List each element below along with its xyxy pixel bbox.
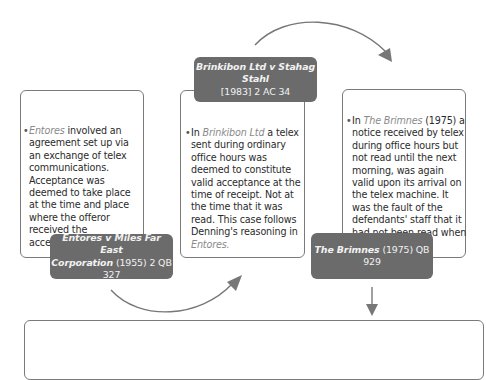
arrowhead-down-icon [366, 304, 378, 316]
bullet-icon: • [346, 115, 352, 127]
case-label-entores: Entores v Miles Far East Corporation (19… [50, 234, 173, 279]
case-description: a telex sent during ordinary office hour… [191, 127, 300, 237]
case-name-line1: Entores v Miles Far East [62, 232, 161, 256]
case-name: Brinkibon Ltd v Stahag Stahl [196, 61, 315, 85]
text-suffix: . [227, 239, 230, 250]
case-label-brimnes: The Brimnes (1975) QB 929 [311, 233, 433, 279]
case-reference: Entores [29, 125, 65, 136]
case-name-line2: Corporation [51, 257, 113, 268]
case-reference: Brinkibon Ltd [203, 127, 265, 138]
bullet-icon: • [23, 125, 29, 137]
case-reference-entores: Entores [191, 239, 227, 250]
arrow-brinkibon-to-brimnes [255, 22, 386, 52]
case-description: (1975) a notice received by telex during… [352, 115, 466, 250]
case-name: The Brimnes [315, 244, 380, 255]
case-description: involved an agreement set up via an exch… [29, 125, 131, 248]
case-citation: [1983] 2 AC 34 [194, 86, 317, 99]
text-prefix: In [352, 115, 364, 126]
text-prefix: In [191, 127, 203, 138]
case-text-brinkibon: •In Brinkibon Ltd a telex sent during or… [191, 127, 305, 251]
summary-box [24, 320, 484, 380]
case-text-entores: •Entores involved an agreement set up vi… [29, 125, 141, 249]
case-reference: The Brimnes [364, 115, 423, 126]
case-label-brinkibon: Brinkibon Ltd v Stahag Stahl [1983] 2 AC… [194, 57, 317, 102]
bullet-icon: • [185, 127, 191, 139]
case-text-brimnes: •In The Brimnes (1975) a notice received… [352, 115, 468, 251]
arrowhead-icon [227, 275, 242, 291]
arrow-entores-to-brinkibon [111, 284, 232, 312]
case-citation: (1955) 2 QB 327 [103, 257, 172, 281]
